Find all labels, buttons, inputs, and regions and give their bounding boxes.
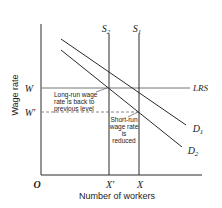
long-run-annotation: Long-run wage rate is back to previous l… [54, 91, 98, 113]
d2-label: D2 [187, 145, 199, 158]
svg-text:Short-run: Short-run [110, 116, 137, 123]
x-tick-x-prime: X' [105, 179, 115, 190]
s2-label: S2 [102, 23, 111, 36]
y-axis-label: Wage rate [10, 74, 20, 115]
long-run-arrow [96, 88, 107, 92]
svg-text:is: is [122, 130, 127, 137]
s1-label: S1 [133, 23, 142, 36]
y-tick-w-prime: W' [25, 107, 36, 118]
svg-text:rate is back to: rate is back to [54, 98, 95, 105]
short-run-annotation: Short-run wage rate is reduced [109, 116, 139, 144]
x-axis-label: Number of workers [79, 191, 156, 201]
svg-text:reduced: reduced [112, 137, 136, 144]
svg-text:previous level: previous level [54, 105, 94, 113]
origin-label: O [33, 179, 40, 190]
lrs-label: LRS [192, 83, 209, 93]
x-tick-x: X [136, 179, 144, 190]
labor-market-diagram: Wage rate W W' O X' X Number of workers … [0, 0, 222, 208]
d1-label: D1 [192, 123, 204, 136]
y-tick-w: W [25, 83, 35, 94]
